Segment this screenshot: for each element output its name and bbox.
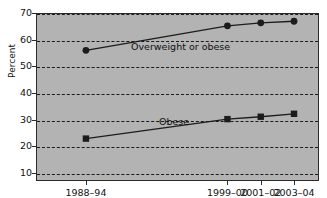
series-label-overweight-or-obese: Overweight or obese xyxy=(131,41,230,52)
plot-area xyxy=(36,13,319,181)
x-tick-label: 2003–04 xyxy=(264,187,324,198)
series-label-obese: Obese xyxy=(159,116,189,127)
y-tick-label: 30 xyxy=(8,114,32,125)
y-tick-label: 40 xyxy=(8,87,32,98)
gridline xyxy=(37,67,318,68)
y-tick-label: 20 xyxy=(8,140,32,151)
x-tick-label: 1988–94 xyxy=(56,187,116,198)
y-tick-label: 10 xyxy=(8,167,32,178)
gridline xyxy=(37,94,318,95)
x-tick-mark xyxy=(261,181,262,185)
y-tick-label: 60 xyxy=(8,34,32,45)
chart-figure: Percent 10203040506070 1988–941999–00200… xyxy=(0,0,327,198)
y-tick-label: 70 xyxy=(8,7,32,18)
gridline xyxy=(37,14,318,15)
x-tick-mark xyxy=(86,181,87,185)
x-tick-mark xyxy=(294,181,295,185)
y-tick-label: 50 xyxy=(8,60,32,71)
gridline xyxy=(37,174,318,175)
x-tick-mark xyxy=(227,181,228,185)
gridline xyxy=(37,147,318,148)
